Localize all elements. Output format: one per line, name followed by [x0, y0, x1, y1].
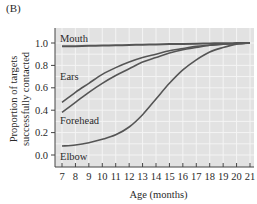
x-tick-label: 17	[191, 171, 202, 182]
y-tick-label: 1.0	[35, 38, 48, 49]
x-tick-label: 20	[231, 171, 242, 182]
y-axis-title: Proportion of targetssuccessfully contac…	[8, 51, 31, 146]
x-tick-label: 13	[137, 171, 148, 182]
x-axis-title: Age (months)	[129, 189, 188, 201]
plot-area	[55, 28, 254, 167]
x-tick-label: 19	[218, 171, 229, 182]
label-forehead: Forehead	[60, 115, 100, 126]
x-tick-label: 12	[124, 171, 135, 182]
y-tick-label: 0.0	[35, 150, 48, 161]
x-tick-label: 21	[245, 171, 256, 182]
x-tick-label: 16	[178, 171, 189, 182]
x-tick-label: 10	[97, 171, 108, 182]
label-mouth: Mouth	[60, 33, 89, 44]
y-tick-label: 0.8	[35, 60, 48, 71]
y-tick-label: 0.2	[35, 127, 48, 138]
y-tick-label: 0.6	[35, 82, 48, 93]
x-tick-label: 9	[86, 171, 91, 182]
x-tick-label: 7	[59, 171, 64, 182]
x-tick-label: 15	[164, 171, 175, 182]
x-tick-label: 18	[204, 171, 215, 182]
x-tick-label: 8	[73, 171, 78, 182]
label-elbow: Elbow	[60, 151, 88, 162]
x-tick-label: 14	[151, 171, 162, 182]
chart: 0.00.20.40.60.81.07891011121314151617181…	[0, 0, 257, 204]
label-ears: Ears	[60, 71, 79, 82]
x-tick-label: 11	[111, 171, 121, 182]
y-tick-label: 0.4	[35, 105, 49, 116]
